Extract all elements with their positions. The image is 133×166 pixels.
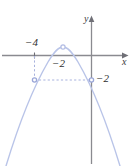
graph-canvas xyxy=(0,0,133,166)
y-axis-arrow-icon xyxy=(89,16,95,23)
vertex-label-neg2: −2 xyxy=(52,58,65,69)
point-marker-y-intercept xyxy=(89,78,93,82)
x-axis-label: x xyxy=(122,57,126,67)
y-intercept-label-neg2: −2 xyxy=(96,73,109,84)
parabola-graph-figure: y x −4 −2 −2 xyxy=(0,0,133,166)
x-tick-label-neg4: −4 xyxy=(25,37,38,48)
y-axis-label: y xyxy=(84,14,88,24)
point-marker-neg4-neg2 xyxy=(32,78,36,82)
point-marker-vertex xyxy=(61,45,65,49)
